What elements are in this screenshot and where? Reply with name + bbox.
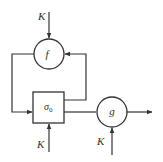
edge-sigma-to-f [64,54,86,100]
input-k-top: K [37,10,49,38]
node-f: f [34,39,64,69]
node-g: g [97,97,127,127]
edge-f-to-sigma [12,54,34,112]
block-diagram: K f σ0 K g K [0,0,163,162]
k-top-label: K [37,10,46,22]
g-label: g [109,105,115,117]
k-sigma-label: K [36,138,45,150]
node-sigma: σ0 [33,92,64,123]
k-g-label: K [96,135,105,147]
f-circle [34,39,64,69]
input-k-sigma: K [36,124,49,152]
input-k-g: K [96,128,112,155]
